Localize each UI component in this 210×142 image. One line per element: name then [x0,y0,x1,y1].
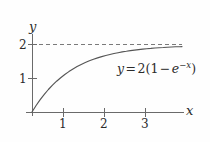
equation-coefficient: 2 [138,61,146,76]
y-tick-label-1: 1 [19,73,27,85]
equation-equals: = [124,61,137,76]
equation-lhs: y [117,61,124,76]
figure-container: y x 2 1 1 2 3 y=2(1−e−x) [0,0,210,142]
equation-exponent: −x [179,60,191,70]
y-tick-label-2: 2 [19,39,27,51]
exponential-curve [32,47,182,112]
x-tick-label-1: 1 [59,118,67,130]
x-tick-label-2: 2 [100,118,108,130]
x-axis-label: x [186,104,193,117]
y-axis-label: y [29,20,36,33]
equation-minus: − [158,61,171,76]
curve-equation-annotation: y=2(1−e−x) [117,61,196,76]
x-tick-label-3: 3 [141,118,149,130]
equation-close-paren: ) [191,61,196,76]
